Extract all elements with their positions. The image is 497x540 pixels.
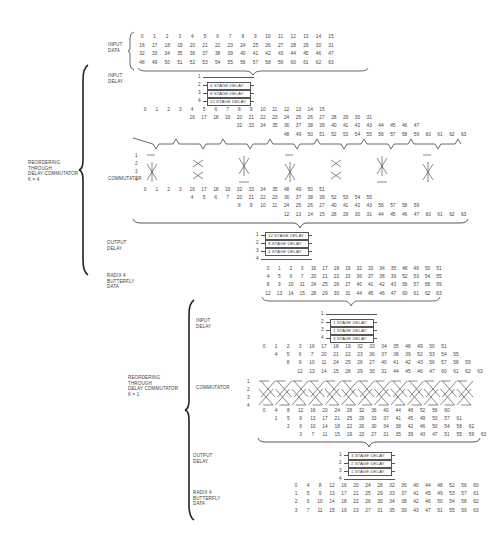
data-value: 26: [304, 203, 316, 208]
data-value: 2: [161, 34, 173, 39]
data-value: 61: [434, 132, 446, 137]
data-value: 6: [302, 499, 314, 504]
data-value: 32: [356, 408, 368, 413]
data-value: 35: [269, 187, 281, 192]
label-line: DATA: [193, 501, 220, 507]
data-value: 45: [365, 291, 377, 296]
data-value: 9: [273, 282, 285, 287]
data-value: 47: [429, 432, 441, 437]
data-value: 4: [302, 483, 314, 488]
wire: [261, 259, 312, 260]
data-value: 12: [262, 291, 274, 296]
wire: [308, 243, 312, 244]
data-value: 55: [446, 508, 458, 513]
butterfly-label-k4: RADIX 4 BUTTERFLY DATA: [107, 273, 134, 290]
data-value: 34: [257, 123, 269, 128]
data-value: 1: [270, 416, 282, 421]
data-value: 33: [386, 491, 398, 496]
data-value: 37: [378, 352, 390, 357]
data-value: 34: [257, 187, 269, 192]
data-value: 34: [380, 424, 392, 429]
data-value: 7: [306, 352, 318, 357]
data-value: 37: [292, 195, 304, 200]
data-value: 60: [399, 291, 411, 296]
commuted-underbrace-k4: [133, 219, 468, 233]
data-value: 25: [292, 115, 304, 120]
data-value: 48: [404, 408, 416, 413]
label-line: DELAY: [108, 79, 123, 85]
data-value: 28: [308, 291, 320, 296]
data-value: 2: [285, 266, 297, 271]
data-value: 17: [198, 115, 210, 120]
data-value: 30: [368, 424, 380, 429]
data-value: 44: [392, 408, 404, 413]
data-value: 39: [404, 432, 416, 437]
delay-line-index: 3: [339, 468, 342, 473]
data-value: 55: [224, 60, 236, 65]
data-value: 61: [450, 369, 462, 374]
data-value: 62: [446, 132, 458, 137]
data-value: 9: [245, 203, 257, 208]
data-value: 30: [330, 291, 342, 296]
data-value: 55: [450, 352, 462, 357]
data-value: 6: [294, 352, 306, 357]
data-value: 22: [343, 424, 355, 429]
data-value: 49: [292, 132, 304, 137]
wire: [373, 322, 377, 323]
data-value: 22: [342, 352, 354, 357]
data-value: 51: [441, 432, 453, 437]
delay-line-index: 2: [339, 460, 342, 465]
data-value: 54: [438, 352, 450, 357]
data-value: 25: [292, 203, 304, 208]
label-line: DELAY: [193, 459, 212, 465]
delay-line: 13 STAGE DELAY: [339, 452, 401, 459]
wire: [203, 77, 254, 78]
data-value: 9: [314, 491, 326, 496]
delay-line-index: 3: [321, 327, 324, 332]
data-value: 15: [331, 432, 343, 437]
data-value: 10: [257, 203, 269, 208]
data-value: 38: [304, 123, 316, 128]
delay-box: 1 STAGE DELAY: [348, 468, 392, 476]
data-value: 40: [328, 123, 340, 128]
delay-line-index: 2: [256, 240, 259, 245]
data-value: 40: [328, 203, 340, 208]
data-value: 10: [314, 499, 326, 504]
data-value: 6: [210, 107, 222, 112]
data-value: 52: [417, 408, 429, 413]
data-value: 11: [269, 107, 281, 112]
data-value: 60: [422, 132, 434, 137]
data-value: 42: [351, 123, 363, 128]
data-value: 41: [340, 123, 352, 128]
input-data-label: INPUT DATA: [108, 42, 122, 53]
data-value: 14: [318, 369, 330, 374]
data-value: 29: [340, 115, 352, 120]
data-value: 61: [300, 60, 312, 65]
data-value: 22: [350, 499, 362, 504]
data-value: 42: [410, 499, 422, 504]
data-value: 32: [136, 51, 148, 56]
data-value: 59: [410, 132, 422, 137]
data-value: 57: [441, 416, 453, 421]
data-value: 14: [319, 424, 331, 429]
delay-line: 1: [321, 311, 383, 318]
delay-line-index: 1: [256, 232, 259, 237]
data-value: 8: [282, 408, 294, 413]
data-value: 16: [186, 115, 198, 120]
data-value: 30: [374, 499, 386, 504]
data-value: 40: [353, 282, 365, 287]
data-value: 47: [325, 51, 337, 56]
data-value: 58: [450, 360, 462, 365]
data-value: 16: [308, 266, 320, 271]
label-line: INPUT: [108, 73, 123, 79]
data-value: 46: [399, 123, 411, 128]
data-value: 18: [330, 266, 342, 271]
data-value: 52: [328, 132, 340, 137]
data-value: 36: [398, 483, 410, 488]
data-value: 56: [375, 132, 387, 137]
data-value: 29: [374, 491, 386, 496]
delay-box: 2 STAGE DELAY: [330, 327, 374, 335]
data-value: 44: [375, 123, 387, 128]
data-value: 2: [163, 107, 175, 112]
data-value: 56: [458, 483, 470, 488]
